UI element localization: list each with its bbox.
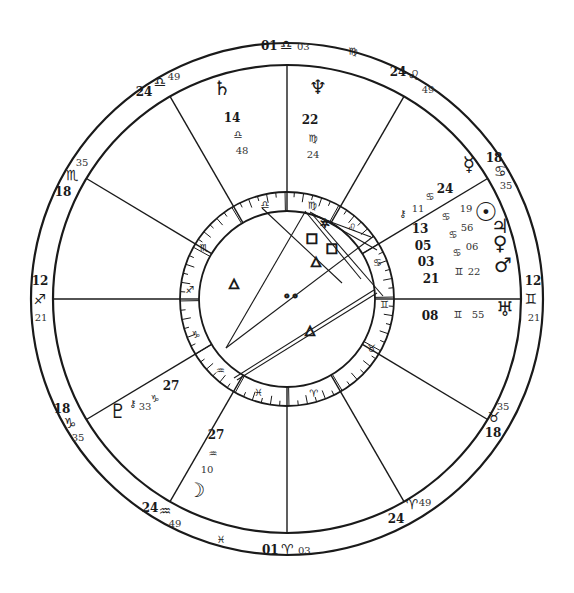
zodiac-band-sign-icon: ♐	[186, 284, 195, 295]
intercepted-sign-icon: ♓	[217, 534, 226, 545]
cusp-minutes-c9: 49	[168, 71, 181, 82]
node-minutes: 33	[139, 401, 152, 412]
cusp-minutes-asc: 21	[528, 312, 541, 323]
mc-degree: 01	[261, 39, 278, 53]
zodiac-band-sign-icon: ♏	[200, 242, 209, 253]
uranus-minutes: 55	[472, 309, 485, 320]
cusp-sign-icon-c6: ♑	[64, 415, 77, 431]
neptune-minutes: 24	[307, 149, 320, 160]
moon-icon: ☽	[187, 478, 205, 502]
cusp-degree-c3: 24	[388, 512, 405, 526]
mc-minutes: 03	[297, 41, 310, 52]
cusp-sign-icon-c3: ♈	[406, 496, 419, 512]
house-cusp-line-c8	[86, 178, 195, 243]
house-cusp-band-c11	[331, 206, 341, 222]
cusp-degree-c9: 24	[136, 85, 153, 99]
square-aspect-icon: □	[306, 230, 318, 245]
degree-tick	[380, 340, 385, 342]
sign-boundary	[330, 205, 339, 222]
ic-degree: 01	[262, 543, 279, 557]
venus-icon: ♀	[493, 231, 508, 255]
zodiac-band-sign-icon: ♍	[308, 200, 317, 211]
ic-sign-aries-icon: ♈	[281, 541, 294, 557]
degree-tick	[191, 344, 195, 346]
ic-minutes: 03	[298, 545, 311, 556]
cusp-degree-dsc: 12	[32, 274, 49, 288]
degree-tick	[217, 218, 223, 225]
degree-tick	[298, 400, 299, 405]
degree-tick	[388, 288, 393, 289]
uranus-degree: 08	[422, 309, 439, 323]
degree-tick	[240, 203, 242, 207]
saturn-icon: ♄	[213, 76, 231, 100]
degree-tick	[363, 361, 370, 367]
degree-tick	[379, 252, 383, 254]
trine-aspect-icon: △	[311, 253, 321, 268]
venus-minutes: 06	[466, 241, 479, 252]
degree-tick	[249, 199, 252, 207]
degree-tick	[270, 396, 271, 405]
degree-tick	[183, 273, 188, 274]
chiron-2-icon: ⚷	[129, 398, 136, 409]
moon-minutes: 10	[201, 464, 214, 475]
cusp-sign-icon-c9: ♎	[154, 74, 167, 90]
jupiter-degree: 05	[415, 239, 432, 253]
aspect-lines	[226, 208, 383, 380]
venus-sign-icon: ♋	[453, 247, 462, 258]
mars-icon: ♂	[494, 253, 512, 277]
degree-tick	[344, 210, 347, 214]
degree-tick	[385, 269, 390, 270]
cusp-degree-asc: 12	[525, 274, 542, 288]
degree-tick	[322, 390, 325, 398]
degree-tick	[276, 193, 277, 198]
planet-placements: ♆22♍24♄14♎48☿24♋☉13♋19♃05♋56♀03♋06♂21♊22…	[109, 75, 514, 502]
degree-tick	[358, 222, 361, 226]
degree-tick	[227, 384, 230, 388]
neptune-icon: ♆	[309, 75, 327, 99]
degree-tick	[386, 324, 391, 325]
pluto-icon: ♇	[109, 399, 127, 423]
zodiac-band-sign-icon: ♑	[191, 329, 200, 340]
sign-boundary	[195, 344, 211, 354]
degree-tick	[244, 392, 246, 397]
neptune-degree: 22	[302, 113, 319, 127]
saturn-degree: 14	[224, 111, 241, 125]
cusp-minutes-c12: 35	[500, 180, 513, 191]
cusp-minutes-c3: 49	[419, 497, 432, 508]
uranus-sign-icon: ♊	[454, 309, 463, 320]
degree-tick	[181, 310, 186, 311]
zodiac-band-sign-icon: ♓	[254, 387, 263, 398]
mercury-icon: ☿	[463, 152, 475, 176]
degree-tick	[332, 391, 334, 395]
degree-tick	[302, 193, 303, 202]
cusp-degree-c8: 18	[55, 185, 72, 199]
degree-tick	[206, 363, 213, 369]
degree-tick	[257, 196, 258, 201]
cusp-degree-c5: 24	[142, 501, 159, 515]
degree-tick	[384, 314, 393, 315]
house-cusp-band-c9	[234, 206, 244, 222]
moon-sign-icon: ♒	[209, 448, 218, 459]
cusp-minutes-c8: 35	[76, 157, 89, 168]
node-degree: 27	[163, 379, 180, 393]
trine-aspect-icon: △	[229, 275, 239, 290]
degree-tick	[210, 225, 214, 228]
degree-tick	[200, 359, 204, 362]
sign-boundary	[362, 244, 378, 254]
chiron-icon: ⚷	[399, 208, 406, 219]
moon-degree: 27	[208, 428, 225, 442]
cusp-degree-c11: 24	[390, 65, 407, 79]
house-cusp-band-c3	[331, 375, 341, 391]
cusp-degree-c2: 18	[485, 426, 502, 440]
cusp-sign-icon-c8: ♏	[66, 167, 79, 183]
zodiac-band-sign-icon: ♈	[309, 388, 318, 399]
sign-boundary	[332, 374, 342, 390]
mars-sign-icon: ♊	[455, 266, 464, 277]
mercury-degree: 24	[437, 182, 454, 196]
degree-tick	[319, 198, 322, 207]
node-sign-icon: ♑	[151, 393, 160, 404]
cusp-sign-icon-c11: ♌	[408, 67, 421, 83]
venus-degree: 03	[418, 255, 435, 269]
cusp-degree-c6: 18	[54, 402, 71, 416]
degree-tick	[204, 232, 211, 238]
